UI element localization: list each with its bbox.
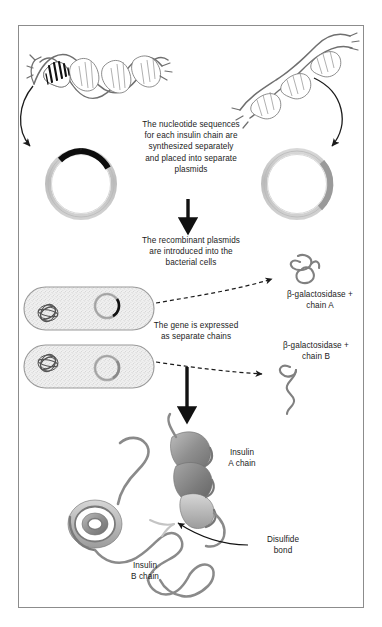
label-insulin-b-chain: Insulin B chain — [116, 560, 174, 582]
label-disulfide-bond: Disulfide bond — [252, 534, 314, 556]
label-insulin-a-chain: Insulin A chain — [213, 447, 271, 469]
insulin-production-diagram: The nucleotide sequences for each insuli… — [0, 0, 382, 627]
label-product-chain-b: β-galactosidase + chain B — [258, 340, 374, 362]
caption-step-express: The gene is expressed as separate chains — [134, 320, 258, 342]
label-product-chain-a: β-galactosidase + chain A — [264, 289, 376, 311]
diagram-canvas — [0, 0, 382, 627]
caption-step-introduce: The recombinant plasmids are introduced … — [111, 235, 271, 269]
bacterial-cell-icon-bottom — [24, 345, 154, 388]
caption-step-synthesize: The nucleotide sequences for each insuli… — [106, 119, 276, 175]
